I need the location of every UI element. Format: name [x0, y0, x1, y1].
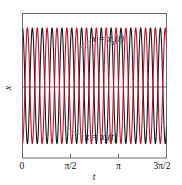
x-tick-label-3: 3π/2 — [154, 161, 171, 171]
annotation-x2: x = x2(t) — [84, 132, 117, 144]
annotation-x1-suffix: (t) — [115, 34, 124, 45]
annotation-x1-prefix: x = x — [91, 34, 112, 44]
x-tick-label-0: 0 — [20, 161, 25, 171]
annotation-x2-prefix: x = x — [84, 132, 105, 142]
x-tick-label-2: π — [116, 161, 121, 171]
annotation-x1: x = x1(t) — [91, 34, 124, 46]
x-tick-label-1: π/2 — [64, 161, 76, 171]
oscillation-plot: x = x1(t) x = x2(t) 0π/2π3π/2 t x — [0, 0, 182, 185]
y-axis-title: x — [3, 85, 13, 91]
annotation-x2-suffix: (t) — [108, 132, 117, 143]
x-axis-title: t — [93, 172, 96, 182]
figure-panel: x = x1(t) x = x2(t) 0π/2π3π/2 t x — [0, 0, 182, 185]
